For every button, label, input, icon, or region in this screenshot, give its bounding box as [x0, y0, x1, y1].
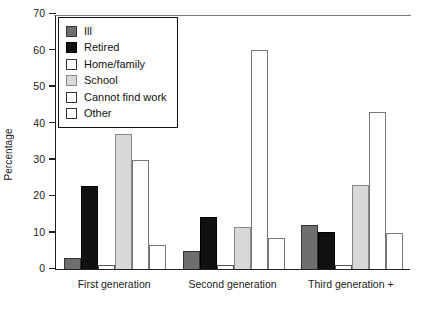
y-axis-label: Percentage	[0, 0, 16, 309]
y-axis-tick-label: 70	[33, 7, 45, 19]
legend-swatch-icon	[66, 42, 77, 53]
x-axis-group-label: Third generation +	[308, 278, 394, 290]
bar	[386, 233, 403, 269]
y-axis-tick-label: 50	[33, 80, 45, 92]
legend-item-label: Ill	[84, 26, 92, 37]
bar	[149, 245, 166, 269]
y-axis-tick-label: 0	[39, 262, 45, 274]
bar	[81, 186, 98, 269]
legend-item: Retired	[66, 40, 167, 57]
legend-swatch-icon	[66, 59, 77, 70]
bar	[335, 265, 352, 269]
bar	[352, 185, 369, 269]
bar	[369, 112, 386, 269]
bar	[115, 134, 132, 269]
x-axis-group-label: First generation	[78, 278, 151, 290]
y-axis-tick: 10	[49, 231, 56, 232]
bar	[234, 227, 251, 269]
bar	[251, 50, 268, 269]
legend: IllRetiredHome/familySchoolCannot find w…	[58, 17, 178, 128]
y-axis-tick-label: 30	[33, 153, 45, 165]
legend-item-label: School	[84, 75, 118, 86]
bar	[183, 251, 200, 269]
bar	[301, 225, 318, 269]
legend-item: Other	[66, 106, 167, 123]
legend-item-label: Other	[84, 108, 112, 119]
legend-item: Cannot find work	[66, 89, 167, 106]
y-axis-tick: 60	[49, 49, 56, 50]
bar	[200, 217, 217, 269]
y-axis-tick: 0	[49, 268, 56, 269]
legend-item: School	[66, 73, 167, 90]
legend-item-label: Cannot find work	[84, 92, 167, 103]
y-axis-tick-label: 40	[33, 117, 45, 129]
x-axis-group-label: Second generation	[188, 278, 276, 290]
y-axis-tick: 30	[49, 158, 56, 159]
bar	[132, 160, 149, 269]
bar-chart-figure: Percentage 010203040506070 First generat…	[0, 0, 422, 309]
bar	[268, 238, 285, 269]
legend-swatch-icon	[66, 26, 77, 37]
y-axis-tick-label: 20	[33, 189, 45, 201]
y-axis-tick-label: 10	[33, 226, 45, 238]
legend-item-label: Home/family	[84, 59, 145, 70]
legend-item-label: Retired	[84, 42, 119, 53]
legend-swatch-icon	[66, 92, 77, 103]
bar	[98, 265, 115, 269]
legend-swatch-icon	[66, 108, 77, 119]
y-axis-tick: 70	[49, 13, 56, 14]
y-axis-tick: 40	[49, 122, 56, 123]
legend-swatch-icon	[66, 75, 77, 86]
bar	[318, 232, 335, 269]
y-axis-tick: 20	[49, 195, 56, 196]
y-axis-tick-label: 60	[33, 44, 45, 56]
legend-item: Home/family	[66, 56, 167, 73]
legend-item: Ill	[66, 23, 167, 40]
bar	[64, 258, 81, 269]
bar	[217, 265, 234, 269]
y-axis-tick: 50	[49, 85, 56, 86]
